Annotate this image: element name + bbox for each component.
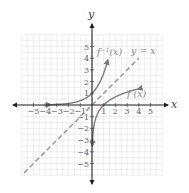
x-tick-label: −2 [63,107,75,116]
y-tick-label: −4 [77,148,89,157]
x-tick-label: −5 [28,107,40,116]
y-tick-label: −3 [77,136,89,145]
y-tick-label: −1 [77,113,89,122]
x-tick-label: 2 [113,107,118,116]
y-tick-label: 4 [84,54,89,63]
y-tick-label: 5 [84,43,89,52]
x-tick-label: 3 [125,107,130,116]
y-tick-label: −5 [77,160,89,169]
x-axis-label: x [171,98,178,111]
y-tick-label: 3 [84,66,89,75]
y-tick-label: 1 [84,89,89,98]
x-tick-label: −3 [51,107,63,116]
identity-line-label: y = x [130,45,156,56]
finverse-label: f−1(x) [96,46,122,57]
y-axis-label: y [87,8,95,21]
y-tick-label: −2 [77,124,89,133]
y-tick-label: 2 [84,78,89,87]
graph-canvas: −5−4−3−2−112345−5−4−3−2−112345 y x f−1(x… [0,0,189,193]
x-tick-label: 1 [101,107,106,116]
x-tick-label: 4 [136,107,141,116]
f-label: f (x) [126,88,147,99]
x-tick-label: 5 [148,107,153,116]
x-tick-label: −4 [39,107,51,116]
